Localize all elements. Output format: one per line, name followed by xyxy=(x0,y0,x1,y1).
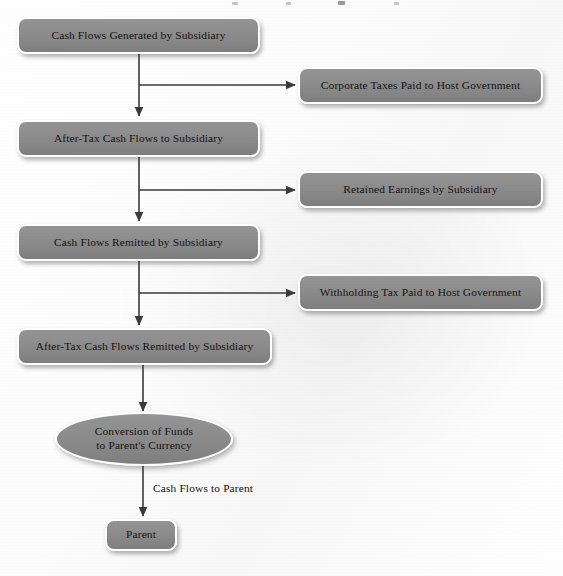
node-corporate-taxes[interactable]: Corporate Taxes Paid to Host Government xyxy=(298,67,543,104)
node-after-tax-cash-flows[interactable]: After-Tax Cash Flows to Subsidiary xyxy=(17,120,260,157)
node-conversion-of-funds[interactable]: Conversion of Funds to Parent's Currency xyxy=(55,412,233,466)
node-label: Parent xyxy=(126,528,156,542)
node-label: After-Tax Cash Flows to Subsidiary xyxy=(54,132,223,146)
node-after-tax-cash-flows-remitted[interactable]: After-Tax Cash Flows Remitted by Subsidi… xyxy=(17,328,272,365)
node-label-line-2: to Parent's Currency xyxy=(96,439,192,453)
node-label: Corporate Taxes Paid to Host Government xyxy=(321,79,520,93)
node-cash-flows-remitted[interactable]: Cash Flows Remitted by Subsidiary xyxy=(17,224,260,261)
node-cash-flows-generated[interactable]: Cash Flows Generated by Subsidiary xyxy=(17,17,260,54)
node-label: Cash Flows Generated by Subsidiary xyxy=(51,29,225,43)
node-retained-earnings[interactable]: Retained Earnings by Subsidiary xyxy=(298,171,543,208)
node-withholding-tax[interactable]: Withholding Tax Paid to Host Government xyxy=(298,274,543,311)
flowchart-canvas: Cash Flows Generated by Subsidiary Corpo… xyxy=(0,0,563,576)
node-parent[interactable]: Parent xyxy=(105,519,177,551)
node-label: Retained Earnings by Subsidiary xyxy=(343,183,497,197)
node-label: Cash Flows Remitted by Subsidiary xyxy=(54,236,223,250)
edge-label-cash-flows-to-parent: Cash Flows to Parent xyxy=(153,482,253,494)
node-label-line-1: Conversion of Funds xyxy=(95,425,193,439)
edge-label-text: Cash Flows to Parent xyxy=(153,482,253,494)
node-label: Withholding Tax Paid to Host Government xyxy=(320,286,522,300)
node-label: After-Tax Cash Flows Remitted by Subsidi… xyxy=(36,340,254,354)
